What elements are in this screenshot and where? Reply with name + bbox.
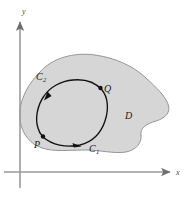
region-curve-figure: C2 C1 P Q D y x: [0, 0, 186, 197]
point-q-label: Q: [104, 83, 112, 94]
figure-container: C2 C1 P Q D y x: [0, 0, 186, 197]
point-p-label: P: [33, 139, 40, 150]
point-q-marker: [98, 86, 102, 90]
point-p-marker: [41, 134, 45, 138]
x-axis-label: x: [175, 168, 180, 177]
region-d-label: D: [124, 110, 133, 121]
y-axis-label: y: [21, 7, 26, 16]
